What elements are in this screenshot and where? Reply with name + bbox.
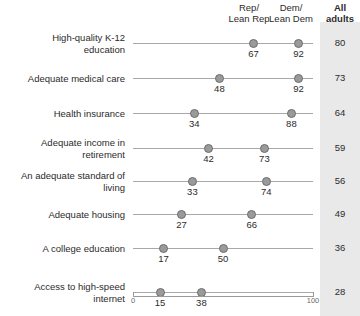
dem-value: 74	[249, 186, 283, 197]
rep-dot[interactable]	[249, 39, 258, 48]
rep-dot[interactable]	[204, 144, 213, 153]
dem-value: 92	[282, 48, 316, 59]
category-label: Health insurance	[0, 108, 125, 120]
rep-value: 15	[143, 297, 177, 308]
category-label-line1: Health insurance	[0, 108, 125, 120]
dem-value: 92	[282, 83, 316, 94]
category-label-line1: Access to high-speed	[0, 281, 125, 293]
dem-value: 73	[247, 153, 281, 164]
column-header-all-line2: adults	[320, 13, 360, 24]
category-label-line1: Adequate housing	[0, 209, 125, 221]
rep-value: 48	[202, 83, 236, 94]
connector-line	[133, 43, 313, 44]
all-adults-value: 36	[320, 242, 360, 253]
dem-dot[interactable]	[287, 109, 296, 118]
rep-dot[interactable]	[188, 177, 197, 186]
dem-dot[interactable]	[294, 74, 303, 83]
dem-value: 66	[235, 219, 269, 230]
chart-row: High-quality K-12education679280	[0, 31, 360, 65]
x-axis-label-min: 0	[121, 296, 145, 305]
dot-plot-chart: Rep/ Lean Rep Dem/ Lean Dem All adults H…	[0, 0, 360, 316]
connector-line	[133, 148, 313, 149]
category-label-line1: High-quality K-12	[0, 32, 125, 44]
category-label: Adequate medical care	[0, 73, 125, 85]
category-label: Adequate housing	[0, 209, 125, 221]
category-label-line1: Adequate medical care	[0, 73, 125, 85]
category-label-line1: Adequate income in	[0, 137, 125, 149]
all-adults-value: 73	[320, 72, 360, 83]
rep-dot[interactable]	[159, 244, 168, 253]
x-axis-line	[133, 296, 313, 297]
x-axis-label-max: 100	[301, 296, 325, 305]
all-adults-value: 28	[320, 286, 360, 297]
category-label: An adequate standard ofliving	[0, 170, 125, 193]
connector-line	[133, 214, 313, 215]
rep-dot[interactable]	[190, 109, 199, 118]
all-adults-value: 49	[320, 208, 360, 219]
category-label: High-quality K-12education	[0, 32, 125, 55]
dem-dot[interactable]	[294, 39, 303, 48]
all-adults-value: 64	[320, 107, 360, 118]
chart-row: Adequate medical care489273	[0, 66, 360, 100]
rep-value: 42	[192, 153, 226, 164]
category-label-line1: A college education	[0, 243, 125, 255]
rep-dot[interactable]	[177, 210, 186, 219]
column-header-all-adults: All adults	[320, 2, 360, 24]
dem-dot[interactable]	[247, 210, 256, 219]
category-label-line2: retirement	[0, 149, 125, 161]
category-label: Adequate income inretirement	[0, 137, 125, 160]
dem-value: 50	[206, 253, 240, 264]
chart-row: A college education175036	[0, 236, 360, 270]
category-label-line2: internet	[0, 293, 125, 305]
column-header-dem-line2: Lean Dem	[255, 13, 327, 24]
rep-value: 34	[177, 118, 211, 129]
chart-row: Adequate income inretirement427359	[0, 136, 360, 170]
all-adults-value: 56	[320, 175, 360, 186]
dem-dot[interactable]	[260, 144, 269, 153]
all-adults-value: 59	[320, 142, 360, 153]
column-header-dem-line1: Dem/	[255, 2, 327, 13]
category-label-line1: An adequate standard of	[0, 170, 125, 182]
category-label-line2: education	[0, 44, 125, 56]
rep-value: 67	[237, 48, 271, 59]
rep-dot[interactable]	[215, 74, 224, 83]
dem-value: 88	[274, 118, 308, 129]
chart-row: An adequate standard ofliving337456	[0, 169, 360, 203]
dem-value: 38	[184, 297, 218, 308]
dem-dot[interactable]	[262, 177, 271, 186]
category-label: A college education	[0, 243, 125, 255]
rep-value: 17	[147, 253, 181, 264]
category-label-line2: living	[0, 182, 125, 194]
connector-line	[133, 181, 313, 182]
rep-value: 33	[175, 186, 209, 197]
dem-dot[interactable]	[219, 244, 228, 253]
all-adults-value: 80	[320, 37, 360, 48]
column-header-all-line1: All	[320, 2, 360, 13]
column-header-dem: Dem/ Lean Dem	[255, 2, 327, 24]
rep-value: 27	[165, 219, 199, 230]
chart-row: Health insurance348864	[0, 101, 360, 135]
chart-row: Adequate housing276649	[0, 202, 360, 236]
category-label: Access to high-speedinternet	[0, 281, 125, 304]
